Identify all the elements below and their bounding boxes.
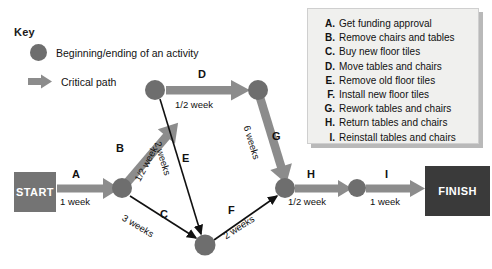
legend-item: F. Install new floor tiles — [320, 88, 472, 102]
legend-item: A. Get funding approval — [320, 17, 472, 31]
normal-path-edges — [130, 99, 277, 240]
edge-label-H-duration: 1/2 week — [288, 196, 326, 207]
node-n3 — [248, 80, 268, 100]
legend-item-text: Buy new floor tiles — [339, 45, 420, 59]
activity-legend-panel: A. Get funding approval B. Remove chairs… — [307, 8, 479, 144]
legend-item: I. Reinstall tables and chairs — [320, 131, 472, 145]
edge-label-G-letter: G — [272, 130, 281, 142]
edge-label-E-letter: E — [182, 152, 189, 164]
node-n6 — [348, 179, 366, 197]
key-legend-row-critical: Critical path — [28, 74, 116, 89]
legend-item-key: E. — [320, 74, 335, 88]
edge-label-C-letter: C — [160, 208, 168, 220]
legend-item-text: Remove chairs and tables — [339, 31, 455, 45]
edge-label-D-duration: 1/2 week — [175, 99, 213, 110]
legend-item-text: Rework tables and chairs — [339, 102, 451, 116]
legend-item-text: Move tables and chairs — [339, 60, 442, 74]
edge-D-arrow — [166, 80, 250, 101]
legend-item-key: F. — [320, 88, 335, 102]
legend-item-key: B. — [320, 31, 335, 45]
legend-item-text: Install new floor tiles — [339, 88, 429, 102]
edge-H-arrow — [295, 180, 352, 197]
edge-label-A-letter: A — [72, 168, 80, 180]
key-title: Key — [14, 26, 35, 38]
edge-label-B-letter: B — [116, 142, 124, 154]
key-legend-label-node: Beginning/ending of an activity — [56, 47, 198, 59]
edge-label-I-duration: 1 week — [370, 196, 400, 207]
thick-arrow-icon — [28, 74, 52, 89]
legend-item-key: G. — [320, 102, 335, 116]
node-n4 — [195, 235, 216, 256]
legend-item: B. Remove chairs and tables — [320, 31, 472, 45]
legend-item: H. Return tables and chairs — [320, 116, 472, 130]
node-n1 — [112, 178, 132, 198]
key-legend-row-node: Beginning/ending of an activity — [30, 44, 198, 61]
finish-node-box: FINISH — [425, 166, 490, 216]
legend-item: C. Buy new floor tiles — [320, 45, 472, 59]
node-n2 — [145, 80, 165, 100]
legend-item-text: Reinstall tables and chairs — [339, 131, 456, 145]
legend-item: G. Rework tables and chairs — [320, 102, 472, 116]
legend-item-text: Remove old floor tiles — [339, 74, 435, 88]
legend-item-key: A. — [320, 17, 335, 31]
legend-item-text: Get funding approval — [339, 17, 432, 31]
circle-node-icon — [30, 44, 47, 61]
edge-label-D-letter: D — [198, 68, 206, 80]
legend-item-key: C. — [320, 45, 335, 59]
legend-item-key: H. — [320, 116, 335, 130]
legend-item-text: Return tables and chairs — [339, 116, 447, 130]
legend-item: D. Move tables and chairs — [320, 60, 472, 74]
edge-label-A-duration: 1 week — [60, 196, 90, 207]
start-node-box: START — [14, 172, 56, 212]
edge-label-H-letter: H — [307, 168, 315, 180]
edge-label-I-letter: I — [385, 168, 388, 180]
legend-item-key: D. — [320, 60, 335, 74]
legend-item-key: I. — [320, 131, 335, 145]
node-n5 — [275, 178, 295, 198]
legend-item: E. Remove old floor tiles — [320, 74, 472, 88]
edge-I-arrow — [366, 180, 425, 197]
network-diagram-canvas: Key Beginning/ending of an activity Crit… — [0, 0, 492, 269]
key-legend-label-critical: Critical path — [61, 76, 116, 88]
edge-label-F-letter: F — [228, 204, 235, 216]
